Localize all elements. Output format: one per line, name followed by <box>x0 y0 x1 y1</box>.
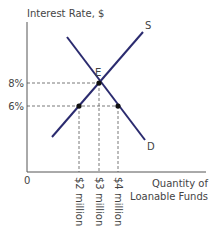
point-2-million-6-percent <box>76 103 81 108</box>
x-tick-2-million: $2 million <box>74 177 85 226</box>
y-tick-6-percent: 6% <box>8 101 24 112</box>
loanable-funds-chart: Interest Rate, $ S D E 8% 6% 0 $2 millio… <box>0 0 219 231</box>
curve-label-d: D <box>147 141 155 152</box>
curve-label-s: S <box>145 20 151 31</box>
x-tick-4-million: $4 million <box>113 177 124 226</box>
x-axis-label-line1: Quantity of <box>152 178 209 189</box>
equilibrium-label: E <box>95 67 101 78</box>
point-4-million-6-percent <box>115 103 120 108</box>
origin-label: 0 <box>24 175 30 186</box>
x-tick-3-million: $3 million <box>94 177 105 226</box>
demand-curve <box>67 37 145 140</box>
y-tick-8-percent: 8% <box>8 78 24 89</box>
equilibrium-point <box>96 80 101 85</box>
x-axis-label-line2: Loanable Funds <box>130 191 208 202</box>
y-axis-label: Interest Rate, $ <box>27 8 104 19</box>
